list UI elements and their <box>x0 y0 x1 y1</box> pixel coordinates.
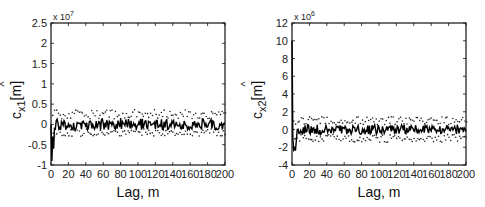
x-axis-label: Lag, m <box>117 184 160 200</box>
y-tick-label: -1 <box>37 159 47 171</box>
x-tick-label: 180 <box>198 168 216 180</box>
x-tick-label: 140 <box>164 168 182 180</box>
series-estimate <box>292 41 466 151</box>
x-tick-label: 0 <box>48 168 54 180</box>
x-tick-label: 20 <box>303 168 315 180</box>
x-tick-label: 160 <box>181 168 199 180</box>
y-axis-label: cx2[m] <box>249 81 268 119</box>
x-tick-label: 20 <box>62 168 74 180</box>
x-tick-label: 0 <box>289 168 295 180</box>
y-tick-label: 12 <box>276 17 288 29</box>
x-tick-label: 160 <box>422 168 440 180</box>
y-tick-label: 0 <box>41 118 47 130</box>
x-tick-label: 40 <box>321 168 333 180</box>
plot-frame <box>292 23 466 165</box>
plot-cx1: 020406080100120140160180200-1-0.500.511.… <box>0 10 234 200</box>
chart-figure: 020406080100120140160180200-1-0.500.511.… <box>0 0 485 207</box>
y-tick-label: 2 <box>41 37 47 49</box>
x-tick-label: 200 <box>216 168 234 180</box>
hat-accent: ^ <box>239 81 251 87</box>
y-tick-label: 6 <box>282 70 288 82</box>
y-tick-label: 1.5 <box>32 58 47 70</box>
y-multiplier: x 107 <box>53 10 74 22</box>
x-tick-label: 60 <box>97 168 109 180</box>
x-tick-label: 80 <box>114 168 126 180</box>
x-axis-label: Lag, m <box>358 184 401 200</box>
x-tick-label: 180 <box>439 168 457 180</box>
y-tick-label: 4 <box>282 88 288 100</box>
hat-accent: ^ <box>0 81 10 87</box>
series-estimate <box>51 119 225 161</box>
plot-cx2: 020406080100120140160180200-4-2024681012… <box>239 10 475 200</box>
y-tick-label: -2 <box>278 141 288 153</box>
y-tick-label: 2.5 <box>32 17 47 29</box>
y-tick-label: 0.5 <box>32 98 47 110</box>
y-tick-label: 2 <box>282 106 288 118</box>
x-tick-label: 200 <box>457 168 475 180</box>
y-tick-label: -4 <box>278 159 288 171</box>
x-tick-label: 100 <box>370 168 388 180</box>
y-tick-label: -0.5 <box>28 139 47 151</box>
plot-frame <box>51 23 225 165</box>
x-tick-label: 60 <box>338 168 350 180</box>
y-tick-label: 0 <box>282 124 288 136</box>
x-tick-label: 120 <box>146 168 164 180</box>
y-tick-label: 8 <box>282 53 288 65</box>
series-confidence-dots <box>293 116 468 143</box>
x-tick-label: 140 <box>405 168 423 180</box>
y-multiplier: x 106 <box>294 10 315 22</box>
x-tick-label: 40 <box>80 168 92 180</box>
y-axis-label: cx1[m] <box>8 81 27 119</box>
y-tick-label: 1 <box>41 78 47 90</box>
y-tick-label: 10 <box>276 35 288 47</box>
x-tick-label: 120 <box>387 168 405 180</box>
x-tick-label: 100 <box>129 168 147 180</box>
x-tick-label: 80 <box>355 168 367 180</box>
